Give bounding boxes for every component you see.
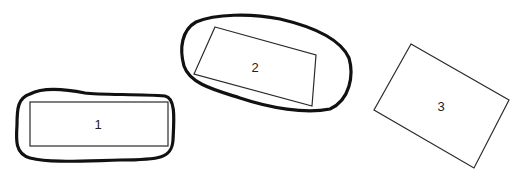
shape-2-label: 2: [251, 60, 258, 75]
shape-1-label: 1: [94, 117, 101, 132]
shape-1-group: 1: [17, 89, 174, 161]
shape-2-group: 2: [182, 15, 351, 111]
shape-3-group: 3: [374, 44, 509, 168]
shape-2-outline: [182, 15, 351, 111]
diagram-canvas: 1 2 3: [0, 0, 526, 176]
shape-3-label: 3: [437, 99, 444, 114]
